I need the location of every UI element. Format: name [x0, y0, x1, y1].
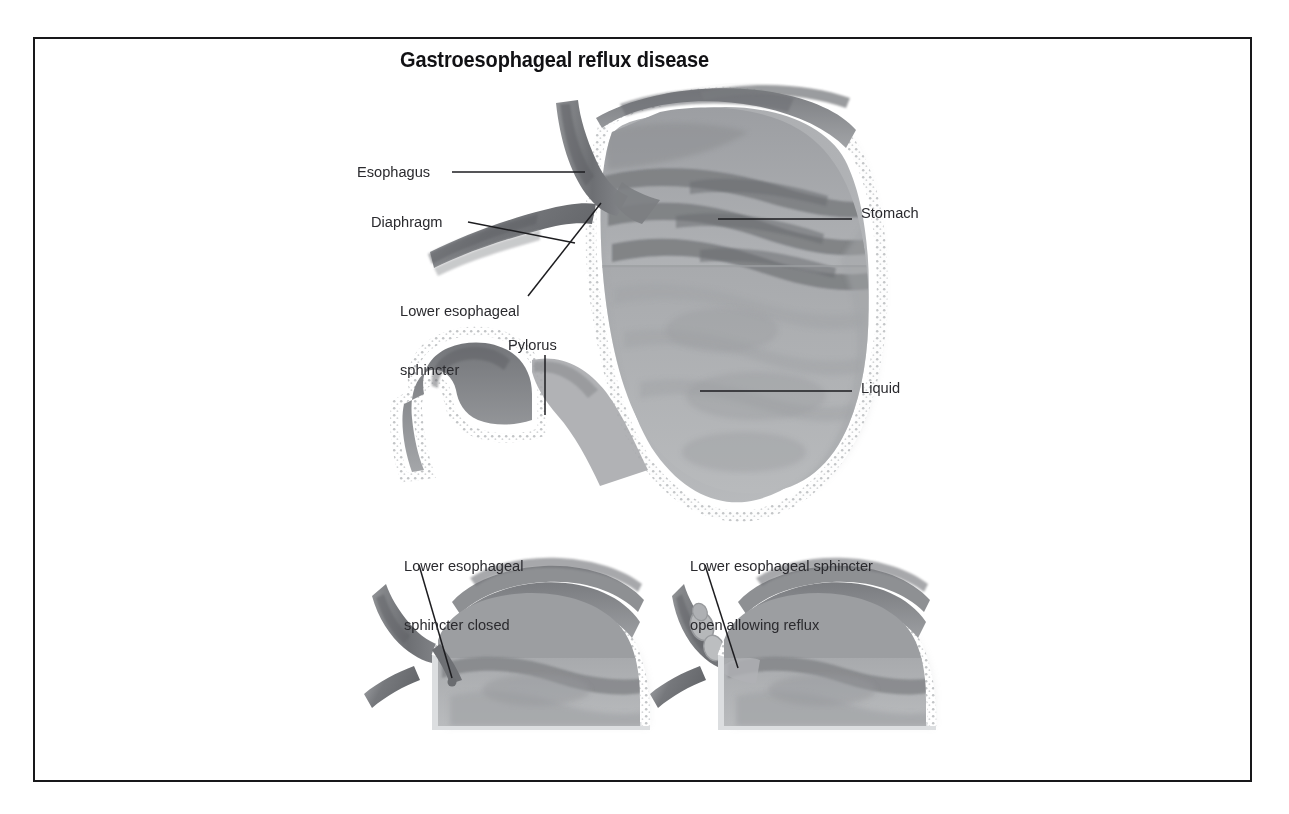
label-les-line2: sphincter [400, 360, 520, 380]
label-les-line1: Lower esophageal [400, 301, 520, 321]
caption-sphincter-open: Lower esophageal sphincter open allowing… [690, 517, 873, 673]
label-diaphragm: Diaphragm [371, 212, 443, 232]
label-lower-esophageal-sphincter: Lower esophageal sphincter [400, 262, 520, 418]
caption-open-line2: open allowing reflux [690, 615, 873, 635]
caption-closed-line2: sphincter closed [404, 615, 524, 635]
label-stomach: Stomach [861, 203, 919, 223]
caption-open-line1: Lower esophageal sphincter [690, 556, 873, 576]
label-esophagus: Esophagus [357, 162, 430, 182]
label-liquid: Liquid [861, 378, 900, 398]
anatomy-illustration [0, 0, 1289, 814]
caption-closed-line1: Lower esophageal [404, 556, 524, 576]
label-pylorus: Pylorus [508, 335, 557, 355]
illustration-stage [0, 0, 1289, 814]
caption-sphincter-closed: Lower esophageal sphincter closed [404, 517, 524, 673]
liquid-level-line [560, 265, 920, 267]
figure-page: Gastroesophageal reflux disease [0, 0, 1289, 814]
